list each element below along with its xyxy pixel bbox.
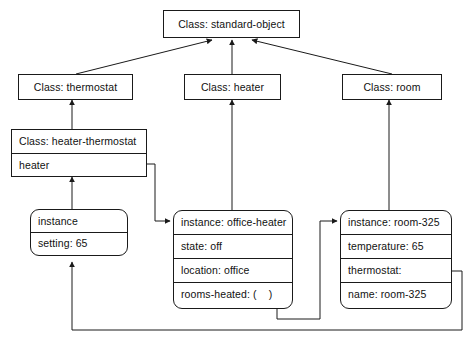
instance-slot-thermostat[interactable]: thermostat: [341,258,451,282]
instance-node-thermostat[interactable]: instance setting: 65 [30,209,128,256]
instance-header-thermostat: instance [31,210,127,232]
instance-slot-rooms-heated-label: rooms-heated: ( [181,289,257,300]
class-slot-heater[interactable]: heater [12,153,146,176]
class-name-heater: Class: heater [185,75,280,99]
instance-header-office-heater: instance: office-heater [174,211,292,234]
instance-slot-setting[interactable]: setting: 65 [31,232,127,254]
class-node-heater[interactable]: Class: heater [184,74,281,100]
instance-slot-rooms-heated-close-paren: ) [257,289,275,300]
class-name-thermostat: Class: thermostat [19,75,132,99]
edge-thermostat-to-standard-object [76,40,212,74]
diagram-canvas: Class: standard-object Class: thermostat… [0,0,474,343]
edge-room-to-standard-object [252,40,392,74]
instance-slot-rooms-heated[interactable]: rooms-heated: () [174,282,292,306]
instance-header-room-325: instance: room-325 [341,211,451,234]
class-node-heater-thermostat[interactable]: Class: heater-thermostat heater [11,129,147,177]
instance-slot-temperature[interactable]: temperature: 65 [341,234,451,258]
instance-node-room-325[interactable]: instance: room-325 temperature: 65 therm… [340,210,452,309]
instance-slot-name[interactable]: name: room-325 [341,282,451,306]
instance-node-office-heater[interactable]: instance: office-heater state: off locat… [173,210,293,309]
class-name-standard-object: Class: standard-object [164,11,299,37]
class-node-room[interactable]: Class: room [342,74,442,100]
class-name-heater-thermostat: Class: heater-thermostat [12,130,146,153]
instance-slot-location[interactable]: location: office [174,258,292,282]
class-name-room: Class: room [343,75,441,99]
class-node-standard-object[interactable]: Class: standard-object [163,10,300,38]
class-node-thermostat[interactable]: Class: thermostat [18,74,133,100]
instance-slot-state[interactable]: state: off [174,234,292,258]
